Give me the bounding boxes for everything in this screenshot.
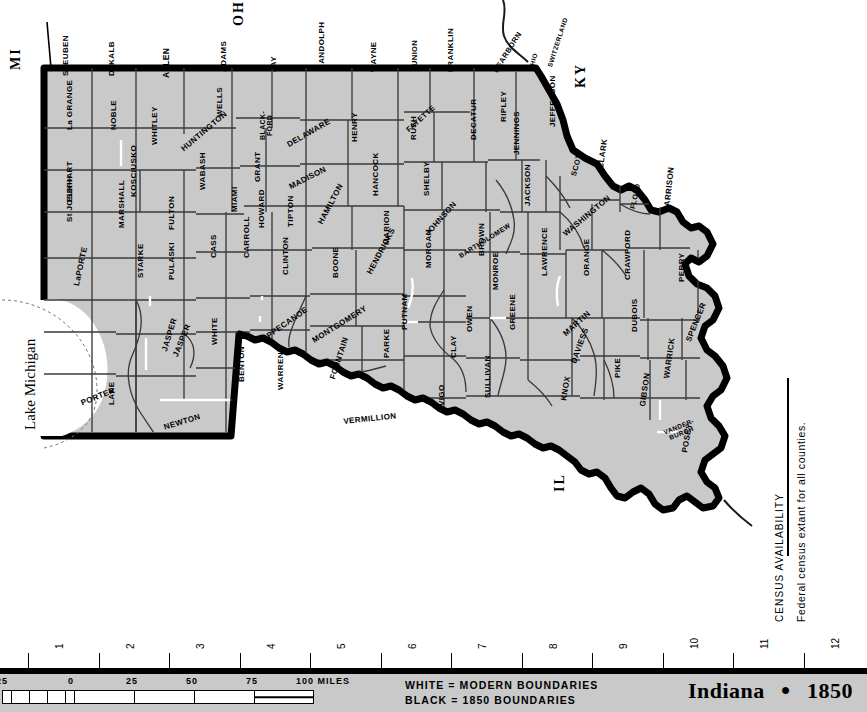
ruler-tick-label: 11 <box>759 639 770 649</box>
county-label: CRAWFORD <box>624 230 632 280</box>
county-label: SULLIVAN <box>484 355 492 398</box>
distance-scale-bar <box>2 690 314 704</box>
ruler-tick-label: 3 <box>195 643 206 649</box>
scale-label: 100 MILES <box>296 676 350 686</box>
county-label: BOONE <box>332 247 340 278</box>
census-availability-title: CENSUS AVAILABILITY <box>774 493 785 622</box>
county-label: WHITLEY <box>151 106 159 145</box>
ruler-tick-label: 12 <box>830 638 841 649</box>
neighbor-label-ky: KY <box>573 63 589 88</box>
scale-label: 75 <box>246 676 258 686</box>
county-label: VIGO <box>438 384 446 406</box>
state-boundary-1850 <box>44 68 727 510</box>
county-label: RIPLEY <box>500 91 508 122</box>
county-label: DeKALB <box>108 41 116 76</box>
census-divider-rule <box>787 378 789 556</box>
county-label: JAY <box>270 56 278 72</box>
county-label: JENNINGS <box>513 111 521 155</box>
map-canvas: MI OH KY IL Lake Michigan STEUBENDeKALBA… <box>0 0 867 645</box>
county-label: FRANKLIN <box>447 28 455 72</box>
county-label: MORGAN <box>425 229 433 268</box>
neighbor-label-oh: OH <box>231 0 247 26</box>
ruler-tick-label: 9 <box>618 643 629 649</box>
ruler-tick-label: 6 <box>407 643 418 649</box>
ruler-tick-label: 7 <box>477 643 488 649</box>
county-label: BENTON <box>238 346 246 382</box>
county-label: PUTNAM <box>401 293 409 330</box>
county-label: STARKE <box>137 243 145 278</box>
county-label: PARKE <box>383 329 391 358</box>
lake-michigan-label: Lake Michigan <box>22 339 39 430</box>
census-availability-block: CENSUS AVAILABILITY Federal census extan… <box>770 350 860 630</box>
county-label: CARROLL <box>243 216 251 258</box>
county-label: CASS <box>210 234 218 258</box>
county-label: ALLEN <box>162 48 171 78</box>
ruler-tick-label: 10 <box>689 638 700 649</box>
county-label: PULASKI <box>168 242 176 280</box>
county-label: BROWN <box>478 223 486 256</box>
county-label: CLINTON <box>282 237 290 275</box>
county-label: BLACK- FORD <box>259 111 273 140</box>
county-label: STEUBEN <box>62 35 70 76</box>
county-label: GREENE <box>509 294 517 330</box>
neighbor-label-mi: MI <box>8 47 24 70</box>
county-label: ADAMS <box>220 41 228 72</box>
county-label: NOBLE <box>110 100 118 130</box>
census-availability-note: Federal census extant for all counties. <box>795 422 807 622</box>
map-footer-bar: 250255075100 MILES WHITE = MODERN BOUNDA… <box>0 672 867 712</box>
scale-label: 25 <box>0 676 8 686</box>
legend-black-line: BLACK = 1850 BOUNDARIES <box>405 693 598 708</box>
county-label: JEFFERSON <box>549 75 557 127</box>
boundary-legend: WHITE = MODERN BOUNDARIES BLACK = 1850 B… <box>405 678 598 708</box>
ruler-tick-label: 4 <box>266 643 277 649</box>
county-label: TIPTON <box>287 195 295 227</box>
ruler-tick-label: 1 <box>54 643 65 649</box>
county-label: HENRY <box>351 112 359 142</box>
county-label: PIKE <box>614 358 622 378</box>
county-label: PERRY <box>678 253 686 282</box>
scale-label: 0 <box>68 676 74 686</box>
county-label: WAYNE <box>370 41 378 72</box>
county-label: JACKSON <box>524 164 532 206</box>
scale-label: 50 <box>186 676 198 686</box>
michigan-leader-line <box>47 22 51 68</box>
county-label: FULTON <box>168 196 176 230</box>
neighbor-label-il: IL <box>552 473 568 492</box>
county-label: GRANT <box>254 152 262 182</box>
scale-label: 25 <box>126 676 138 686</box>
county-label: OWEN <box>466 306 474 333</box>
county-label: LAKE <box>108 382 116 405</box>
county-label: St JOSEPH <box>66 176 74 222</box>
county-label: RUSH <box>410 116 418 140</box>
county-label: KOSCIUSKO <box>130 145 138 197</box>
county-label: MARSHALL <box>118 180 126 228</box>
map-title-state: Indiana <box>688 678 765 703</box>
ruler-tick-label: 8 <box>548 643 559 649</box>
bullet-icon: ● <box>781 681 791 698</box>
county-label: LAWRENCE <box>541 227 549 276</box>
ruler-tick-label: 2 <box>125 643 136 649</box>
legend-white-line: WHITE = MODERN BOUNDARIES <box>405 678 598 693</box>
indiana-county-map <box>0 0 867 645</box>
county-label: DUBOIS <box>631 298 639 332</box>
map-title-year: 1850 <box>807 678 853 703</box>
map-title: Indiana ● 1850 <box>688 678 853 704</box>
county-label: ORANGE <box>583 238 591 276</box>
county-label: MIAMI <box>231 186 239 212</box>
county-label: WABASH <box>199 152 207 190</box>
county-label: La GRANGE <box>66 80 74 130</box>
county-label: CLAY <box>450 335 458 358</box>
county-label: HANCOCK <box>372 152 380 196</box>
ruler-tick-label: 5 <box>336 643 347 649</box>
county-label: WARREN <box>277 352 285 390</box>
county-label: WHITE <box>211 317 219 345</box>
county-label: RANDOLPH <box>318 21 326 70</box>
county-label: MONROE <box>492 252 500 290</box>
county-label: UNION <box>411 40 419 66</box>
county-label: SHELBY <box>423 161 431 196</box>
county-label: DECATUR <box>470 99 478 140</box>
county-label: HOWARD <box>258 189 266 228</box>
